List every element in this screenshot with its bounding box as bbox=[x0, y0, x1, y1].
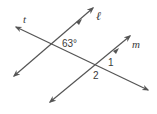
angle-1-label: 1 bbox=[108, 57, 114, 68]
label-t: t bbox=[23, 13, 27, 25]
label-m: m bbox=[132, 38, 140, 50]
geometry-diagram: t ℓ m 63° 1 2 bbox=[0, 0, 157, 114]
label-l: ℓ bbox=[96, 9, 101, 23]
angle-2-label: 2 bbox=[93, 70, 99, 81]
line-t bbox=[16, 27, 148, 90]
angle-63-label: 63° bbox=[62, 38, 77, 49]
